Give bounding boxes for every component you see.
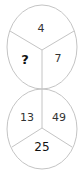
bottom-right-segment-value: 49 bbox=[52, 111, 66, 124]
missing-value-marker: ? bbox=[21, 52, 29, 67]
bottom-segment-value: 25 bbox=[34, 140, 49, 154]
top-segment-value: 4 bbox=[38, 22, 45, 35]
bottom-left-segment-value: 13 bbox=[20, 111, 34, 124]
right-segment-value: 7 bbox=[55, 52, 62, 65]
